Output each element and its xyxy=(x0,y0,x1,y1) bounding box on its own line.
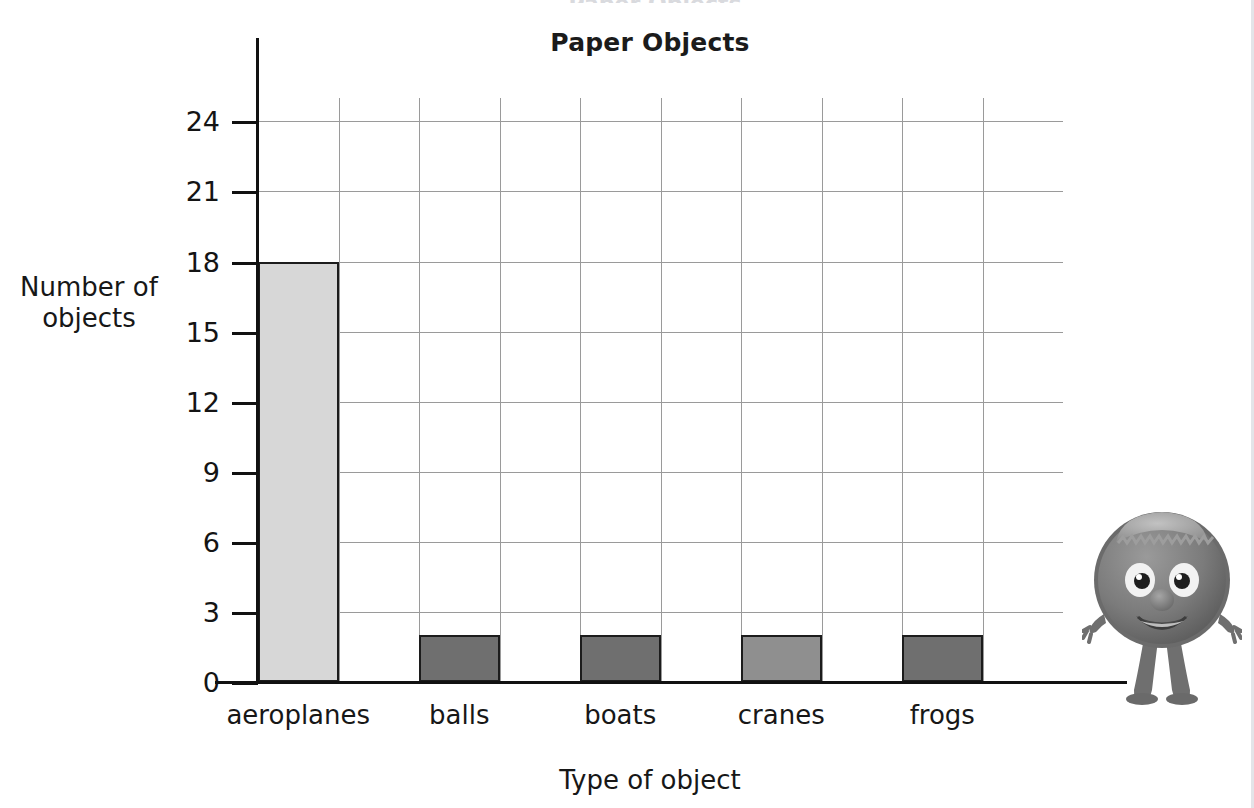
x-label-aeroplanes: aeroplanes xyxy=(226,700,370,730)
x-label-boats: boats xyxy=(584,700,656,730)
gridline-vertical xyxy=(822,98,823,682)
page-bleed-text: Paper Objects xyxy=(420,0,890,3)
y-tick-label-24: 24 xyxy=(160,106,220,137)
y-tick-3 xyxy=(232,612,258,615)
gridline-vertical xyxy=(500,98,501,682)
y-tick-label-3: 3 xyxy=(160,596,220,627)
gridline-vertical xyxy=(339,98,340,682)
bar-balls xyxy=(419,635,500,682)
gridline-vertical xyxy=(902,98,903,682)
y-tick-21 xyxy=(232,191,258,194)
y-tick-15 xyxy=(232,332,258,335)
gridline-vertical xyxy=(741,98,742,682)
y-tick-24 xyxy=(232,121,258,124)
gridline-vertical xyxy=(983,98,984,682)
gridline-vertical xyxy=(419,98,420,682)
x-label-cranes: cranes xyxy=(738,700,825,730)
y-tick-9 xyxy=(232,472,258,475)
bar-chart: Paper Objects Paper Objects 242118151296… xyxy=(0,0,1254,808)
y-axis-line xyxy=(256,38,259,684)
bar-aeroplanes xyxy=(258,262,339,682)
plot-area xyxy=(258,98,1063,682)
y-tick-0 xyxy=(232,682,258,685)
y-tick-label-12: 12 xyxy=(160,386,220,417)
bar-boats xyxy=(580,635,661,682)
y-tick-6 xyxy=(232,542,258,545)
gridline-vertical xyxy=(580,98,581,682)
gridline-vertical xyxy=(661,98,662,682)
y-tick-label-6: 6 xyxy=(160,526,220,557)
chart-title: Paper Objects xyxy=(430,28,870,57)
y-tick-18 xyxy=(232,262,258,265)
x-axis-line xyxy=(215,681,1127,684)
bar-frogs xyxy=(902,635,983,682)
y-tick-label-0: 0 xyxy=(160,667,220,698)
x-label-balls: balls xyxy=(429,700,489,730)
bar-cranes xyxy=(741,635,822,682)
x-label-frogs: frogs xyxy=(910,700,975,730)
furry-monster-mascot-icon xyxy=(1082,488,1242,718)
y-tick-label-9: 9 xyxy=(160,456,220,487)
x-axis-title: Type of object xyxy=(380,765,920,795)
y-axis-title: Number of objects xyxy=(8,272,170,333)
y-tick-12 xyxy=(232,402,258,405)
y-tick-label-21: 21 xyxy=(160,176,220,207)
